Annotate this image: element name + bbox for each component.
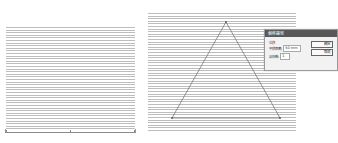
offset-distance-row: 平移距离: 50 mm (269, 45, 301, 52)
copies-row: 副本数: 1 (269, 53, 290, 60)
frame-tick (134, 130, 135, 133)
cancel-button[interactable]: 取消 (311, 49, 333, 56)
hatch-fill (6, 27, 135, 131)
dialog-body: 位移 平移距离: 50 mm 副本数: 1 确定 取消 (265, 37, 337, 70)
anchor-point[interactable] (279, 117, 281, 119)
dialog-title[interactable]: 偏移路径 (265, 30, 337, 37)
offset-path-dialog: 偏移路径 位移 平移距离: 50 mm 副本数: 1 确定 取消 (264, 29, 338, 71)
copies-label: 副本数: (269, 54, 279, 59)
offset-distance-input[interactable]: 50 mm (283, 45, 301, 52)
frame-tick (70, 130, 71, 133)
left-hatch-panel (6, 27, 135, 131)
ok-button[interactable]: 确定 (311, 41, 333, 48)
anchor-point[interactable] (171, 117, 173, 119)
offset-distance-label: 平移距离: (269, 46, 282, 51)
copies-input[interactable]: 1 (280, 53, 290, 60)
frame-tick (6, 130, 7, 133)
anchor-point[interactable] (225, 21, 227, 23)
